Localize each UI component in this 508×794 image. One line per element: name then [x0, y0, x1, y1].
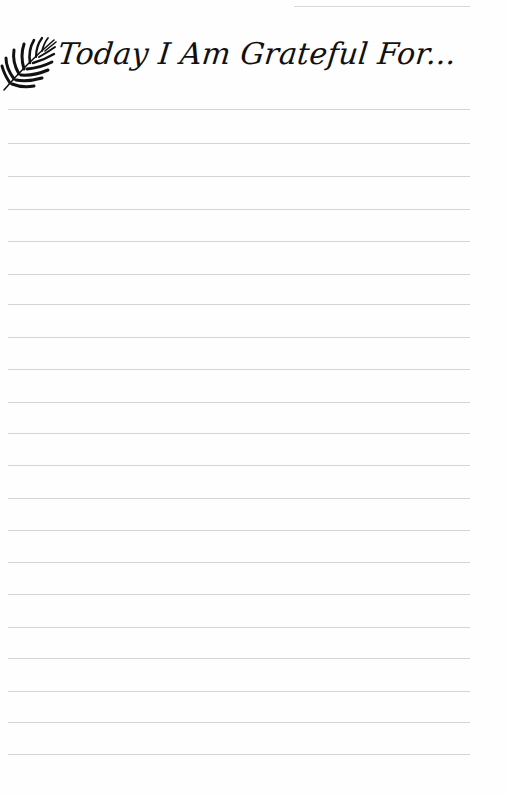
- writing-line: [8, 754, 470, 755]
- writing-line: [8, 337, 470, 338]
- writing-line: [8, 465, 470, 466]
- writing-line: [8, 176, 470, 177]
- page-title: Today I Am Grateful For...: [56, 36, 458, 71]
- writing-line: [8, 143, 470, 144]
- writing-line: [8, 658, 470, 659]
- writing-line: [8, 209, 470, 210]
- writing-line: [8, 304, 470, 305]
- writing-line: [8, 594, 470, 595]
- writing-line: [8, 530, 470, 531]
- writing-line: [8, 433, 470, 434]
- writing-line: [8, 241, 470, 242]
- page-header: Today I Am Grateful For...: [0, 28, 508, 98]
- writing-line: [8, 402, 470, 403]
- writing-line: [8, 498, 470, 499]
- writing-line: [8, 722, 470, 723]
- writing-line: [8, 274, 470, 275]
- journal-page: Today I Am Grateful For...: [0, 0, 508, 794]
- writing-line: [8, 109, 470, 110]
- top-rule: [294, 6, 470, 7]
- writing-line: [8, 627, 470, 628]
- writing-line: [8, 369, 470, 370]
- writing-line: [8, 562, 470, 563]
- palm-leaf-icon: [0, 34, 58, 94]
- writing-line: [8, 691, 470, 692]
